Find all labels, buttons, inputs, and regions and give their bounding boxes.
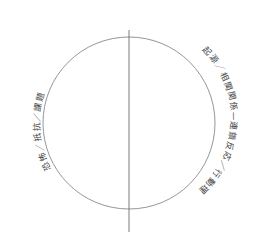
circle-diagram: 恐怖／抵抗／課題 起源／相関関係—連鎖反応／行動理論 <box>0 0 260 239</box>
left-arc-label-text: 恐怖／抵抗／課題 <box>31 90 54 173</box>
left-arc-label: 恐怖／抵抗／課題 <box>31 90 54 173</box>
diagram-canvas: 恐怖／抵抗／課題 起源／相関関係—連鎖反応／行動理論 <box>0 0 260 239</box>
